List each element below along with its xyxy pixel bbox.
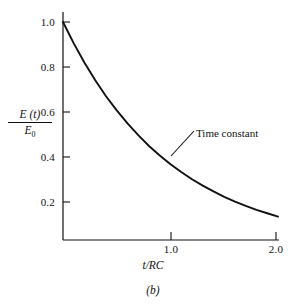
y-axis-label: E (t) E0 (8, 108, 52, 140)
time-constant-annotation: Time constant (196, 127, 258, 139)
annotation-leader-line (171, 131, 194, 156)
figure-panel-b: 1.0 0.8 0.6 0.4 0.2 1.0 2.0 E (t) E0 t/R… (0, 0, 288, 307)
y-tick-label-0.8: 0.8 (31, 62, 55, 73)
y-axis-label-numerator: E (t) (8, 108, 52, 123)
x-tick-label-2.0: 2.0 (261, 244, 288, 255)
y-axis-label-denominator: E0 (8, 123, 52, 139)
y-tick-label-0.4: 0.4 (31, 152, 55, 163)
x-tick-label-1.0: 1.0 (156, 244, 186, 255)
y-tick-label-0.2: 0.2 (31, 197, 55, 208)
x-axis-label: t/RC (123, 259, 183, 271)
panel-caption: (b) (123, 284, 183, 296)
y-tick-label-1.0: 1.0 (31, 17, 55, 28)
decay-curve (63, 22, 278, 217)
